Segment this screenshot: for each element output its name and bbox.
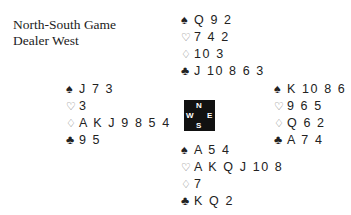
south-hearts: ♡A K Q J 10 8	[181, 159, 283, 176]
south-clubs: ♣K Q 2	[181, 193, 283, 210]
diamond-icon: ♢	[66, 115, 79, 132]
north-diamonds-cards: 10 3	[194, 47, 225, 61]
heart-icon: ♡	[181, 159, 194, 176]
south-clubs-cards: K Q 2	[194, 194, 234, 208]
west-diamonds: ♢A K J 9 8 5 4	[66, 115, 171, 132]
west-clubs-cards: 9 5	[79, 133, 101, 147]
west-hearts: ♡3	[66, 98, 171, 115]
north-hand: ♠Q 9 2 ♡7 4 2 ♢10 3 ♣J 10 8 6 3	[181, 12, 265, 80]
east-diamonds-cards: Q 6 2	[287, 116, 326, 130]
east-spades: ♠K 10 8 6	[274, 81, 346, 98]
west-diamonds-cards: A K J 9 8 5 4	[79, 116, 171, 130]
compass-south: S	[196, 122, 201, 130]
east-clubs: ♣A 7 4	[274, 132, 346, 149]
north-diamonds: ♢10 3	[181, 46, 265, 63]
diamond-icon: ♢	[274, 115, 287, 132]
south-diamonds: ♢7	[181, 176, 283, 193]
north-hearts-cards: 7 4 2	[194, 30, 230, 44]
north-spades-cards: Q 9 2	[194, 13, 233, 27]
heart-icon: ♡	[274, 98, 287, 115]
north-clubs-cards: J 10 8 6 3	[194, 64, 265, 78]
spade-icon: ♠	[274, 81, 287, 98]
spade-icon: ♠	[181, 142, 194, 159]
east-hand: ♠K 10 8 6 ♡9 6 5 ♢Q 6 2 ♣A 7 4	[274, 81, 346, 149]
spade-icon: ♠	[66, 81, 79, 98]
heart-icon: ♡	[181, 29, 194, 46]
south-hearts-cards: A K Q J 10 8	[194, 160, 283, 174]
diamond-icon: ♢	[181, 176, 194, 193]
north-hearts: ♡7 4 2	[181, 29, 265, 46]
club-icon: ♣	[181, 193, 194, 210]
compass-east: E	[207, 112, 212, 120]
heart-icon: ♡	[66, 98, 79, 115]
east-hearts-cards: 9 6 5	[287, 99, 323, 113]
dealer-label: Dealer West	[13, 33, 79, 49]
west-spades: ♠J 7 3	[66, 81, 171, 98]
compass-north: N	[196, 102, 202, 110]
compass-west: W	[186, 112, 194, 120]
east-hearts: ♡9 6 5	[274, 98, 346, 115]
club-icon: ♣	[181, 63, 194, 80]
west-clubs: ♣9 5	[66, 132, 171, 149]
south-spades-cards: A 5 4	[194, 143, 231, 157]
west-spades-cards: J 7 3	[79, 82, 114, 96]
south-spades: ♠A 5 4	[181, 142, 283, 159]
east-spades-cards: K 10 8 6	[287, 82, 346, 96]
south-diamonds-cards: 7	[194, 177, 203, 191]
diamond-icon: ♢	[181, 46, 194, 63]
compass-rose: N W E S	[184, 100, 215, 131]
west-hand: ♠J 7 3 ♡3 ♢A K J 9 8 5 4 ♣9 5	[66, 81, 171, 149]
north-clubs: ♣J 10 8 6 3	[181, 63, 265, 80]
west-hearts-cards: 3	[79, 99, 88, 113]
spade-icon: ♠	[181, 12, 194, 29]
club-icon: ♣	[66, 132, 79, 149]
vulnerability-label: North-South Game	[13, 17, 116, 33]
east-diamonds: ♢Q 6 2	[274, 115, 346, 132]
east-clubs-cards: A 7 4	[287, 133, 324, 147]
south-hand: ♠A 5 4 ♡A K Q J 10 8 ♢7 ♣K Q 2	[181, 142, 283, 210]
north-spades: ♠Q 9 2	[181, 12, 265, 29]
